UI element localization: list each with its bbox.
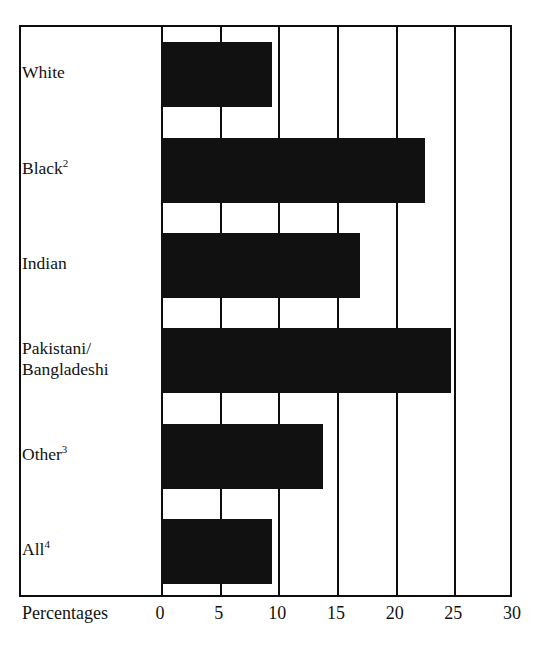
category-label-all: All4 bbox=[22, 539, 147, 560]
x-axis-title: Percentages bbox=[22, 601, 108, 625]
x-tick-5: 5 bbox=[204, 601, 234, 625]
plot-area bbox=[21, 27, 510, 595]
bar bbox=[161, 328, 451, 393]
gridline-0 bbox=[161, 27, 163, 595]
x-tick-25: 25 bbox=[438, 601, 468, 625]
x-tick-0: 0 bbox=[145, 601, 175, 625]
gridline-20 bbox=[396, 27, 398, 595]
x-tick-15: 15 bbox=[321, 601, 351, 625]
category-label-indian: Indian bbox=[22, 253, 147, 274]
gridline-10 bbox=[278, 27, 280, 595]
bar bbox=[161, 519, 272, 584]
x-tick-10: 10 bbox=[262, 601, 292, 625]
category-label-black: Black2 bbox=[22, 158, 147, 179]
bar bbox=[161, 138, 425, 203]
category-label-pakistani: Pakistani/Bangladeshi bbox=[22, 338, 147, 380]
category-label-white: White bbox=[22, 62, 147, 83]
plot-frame bbox=[19, 25, 512, 597]
bar-chart-figure: WhiteBlack2IndianPakistani/BangladeshiOt… bbox=[0, 0, 540, 648]
bar bbox=[161, 233, 360, 298]
category-label-other: Other3 bbox=[22, 444, 147, 465]
x-tick-30: 30 bbox=[497, 601, 527, 625]
bar bbox=[161, 42, 272, 107]
gridline-15 bbox=[337, 27, 339, 595]
bar bbox=[161, 424, 323, 489]
x-tick-20: 20 bbox=[380, 601, 410, 625]
gridline-5 bbox=[220, 27, 222, 595]
gridline-25 bbox=[454, 27, 456, 595]
